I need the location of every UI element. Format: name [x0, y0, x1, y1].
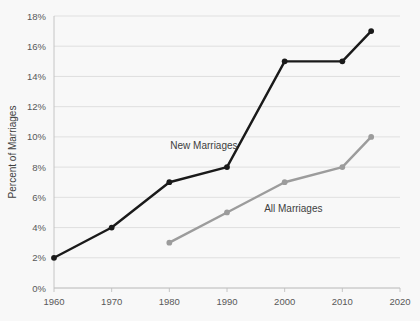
x-tick-label-1970: 1970 — [101, 296, 122, 307]
y-tick-label-10%: 10% — [27, 131, 47, 142]
y-tick-label-12%: 12% — [27, 101, 47, 112]
data-point-2000-15 — [282, 58, 288, 64]
data-point-2010-15 — [339, 58, 345, 64]
data-point-1960-2 — [51, 255, 57, 261]
x-tick-label-2000: 2000 — [274, 296, 295, 307]
x-tick-label-1960: 1960 — [43, 296, 64, 307]
data-point-1980-7 — [166, 179, 172, 185]
y-tick-label-4%: 4% — [32, 222, 46, 233]
y-tick-label-14%: 14% — [27, 71, 47, 82]
y-tick-label-2%: 2% — [32, 252, 46, 263]
y-tick-label-18%: 18% — [27, 11, 47, 22]
data-point-2000-7 — [282, 179, 288, 185]
chart-background — [0, 0, 420, 321]
y-axis-title: Percent of Marriages — [7, 106, 18, 199]
data-point-2015-17 — [368, 28, 374, 34]
line-chart: 0%2%4%6%8%10%12%14%16%18% 19601970198019… — [0, 0, 420, 321]
y-tick-label-6%: 6% — [32, 192, 46, 203]
x-tick-label-1990: 1990 — [216, 296, 237, 307]
data-point-2010-8 — [339, 164, 345, 170]
x-tick-label-1980: 1980 — [159, 296, 180, 307]
series-label-all-marriages: All Marriages — [264, 203, 322, 214]
data-point-2015-10 — [368, 134, 374, 140]
data-point-1980-3 — [166, 240, 172, 246]
data-point-1990-8 — [224, 164, 230, 170]
y-tick-label-16%: 16% — [27, 41, 47, 52]
y-tick-label-8%: 8% — [32, 162, 46, 173]
y-tick-label-0%: 0% — [32, 283, 46, 294]
x-tick-label-2010: 2010 — [332, 296, 353, 307]
chart-canvas: 0%2%4%6%8%10%12%14%16%18% 19601970198019… — [0, 0, 420, 321]
series-label-new-marriages: New Marriages — [170, 140, 237, 151]
x-tick-label-2020: 2020 — [389, 296, 410, 307]
data-point-1970-4 — [109, 225, 115, 231]
data-point-1990-5 — [224, 210, 230, 216]
